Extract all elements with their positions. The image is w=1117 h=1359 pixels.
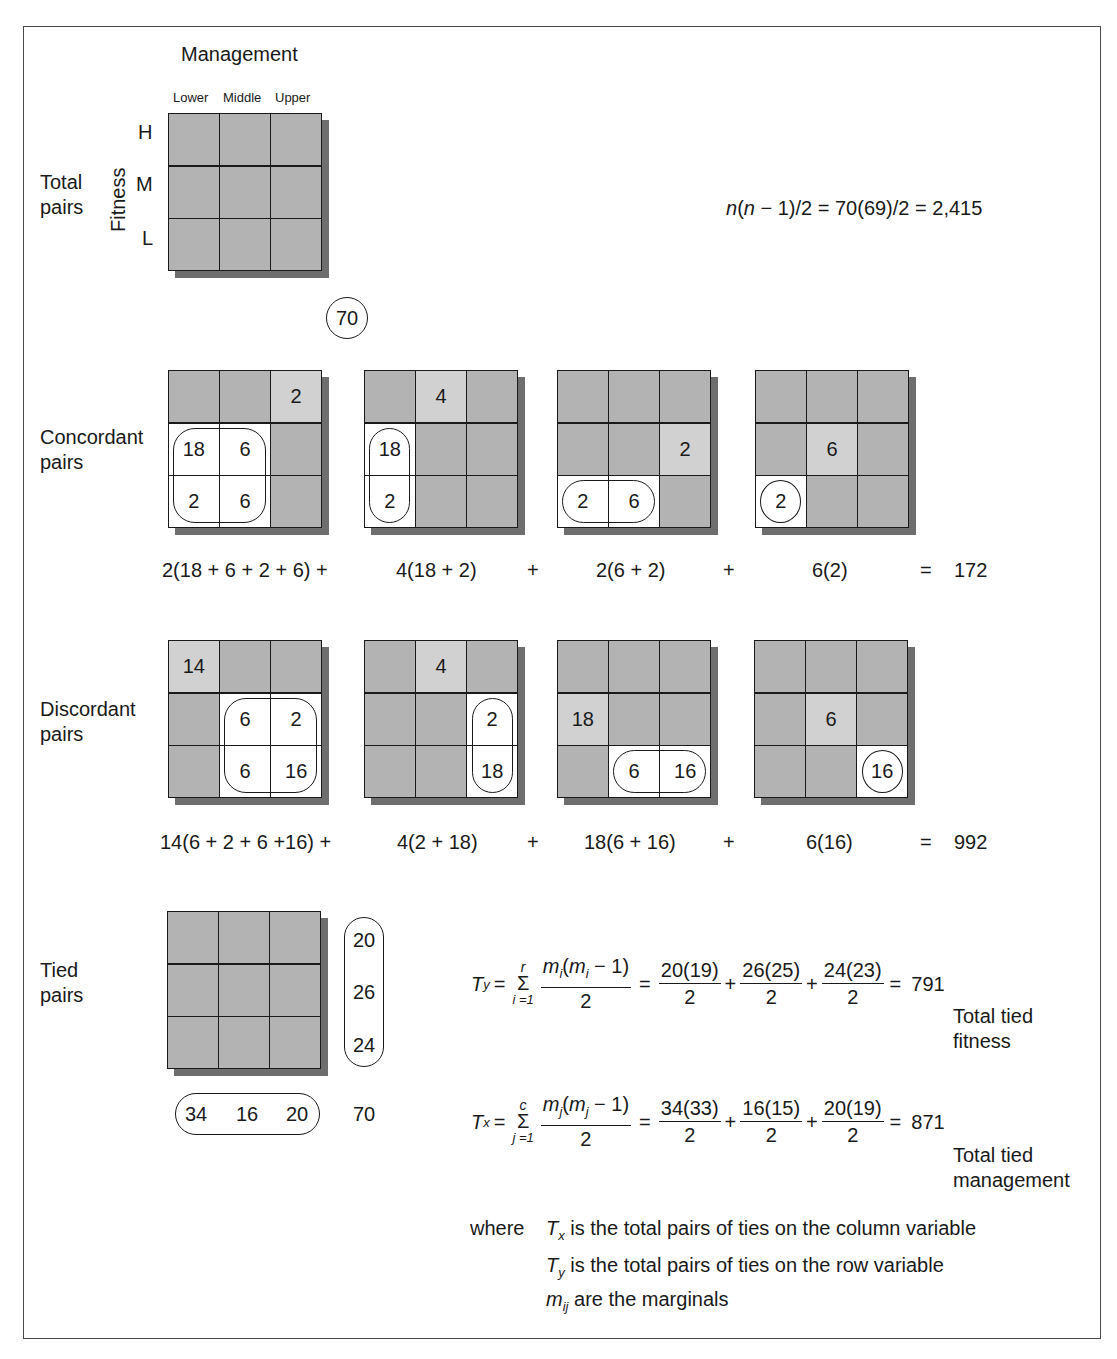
cell: [271, 167, 321, 218]
ty-fraction-1: 20(19)2: [659, 959, 721, 1009]
concordant-grid-2: 4182: [364, 370, 518, 528]
cell: [219, 1017, 269, 1068]
contingency-table: 4182: [364, 370, 518, 528]
cell: [220, 371, 270, 422]
cell: 4: [416, 641, 466, 692]
legend-where: where: [470, 1216, 524, 1240]
cell: [609, 694, 659, 745]
cell: [660, 641, 710, 692]
cell: [756, 424, 806, 475]
cell: [660, 694, 710, 745]
cell: 16: [271, 746, 321, 797]
row-marginal-3: 24: [353, 1033, 375, 1057]
cell: [806, 641, 856, 692]
contingency-table: 62: [755, 370, 909, 528]
cell: [271, 476, 321, 527]
contingency-table: [167, 911, 321, 1069]
cell: [220, 219, 270, 270]
discordant-plus-2: +: [723, 830, 735, 854]
tx-equation: Tx = cΣj =1 mj(mj − 1)2 = 34(33)2 + 16(1…: [471, 1093, 945, 1151]
cell: [558, 746, 608, 797]
cell: 6: [807, 424, 857, 475]
general-fraction: mj(mj − 1)2: [541, 1093, 631, 1151]
cell: [857, 641, 907, 692]
tied-pairs-grid: [167, 911, 321, 1069]
contingency-table: 1462616: [168, 640, 322, 798]
total-pairs-formula: n(n − 1)/2 = 70(69)/2 = 2,415: [726, 196, 982, 220]
contingency-table: 226: [557, 370, 711, 528]
concordant-term-3: 2(6 + 2): [596, 558, 665, 582]
tx-caption-1: Total tied: [953, 1143, 1033, 1167]
cell: [365, 746, 415, 797]
concordant-plus-2: +: [723, 558, 735, 582]
discordant-term-3: 18(6 + 16): [584, 830, 676, 854]
legend-line-tx: Tx is the total pairs of ties on the col…: [546, 1216, 976, 1248]
cell: [609, 641, 659, 692]
total-pairs-label-1: Total: [40, 170, 82, 194]
ty-fraction-3: 24(23)2: [822, 959, 884, 1009]
cell: 16: [857, 746, 907, 797]
cell: [609, 424, 659, 475]
ty-equation: Ty = rΣi =1 mi(mi − 1)2 = 20(19)2 + 26(2…: [471, 955, 945, 1013]
tx-fraction-2: 16(15)2: [740, 1097, 802, 1147]
cell: [807, 476, 857, 527]
cell: 6: [609, 476, 659, 527]
discordant-label-2: pairs: [40, 722, 83, 746]
ty-caption-2: fitness: [953, 1029, 1011, 1053]
cell: [416, 746, 466, 797]
cell: 6: [220, 694, 270, 745]
cell: 2: [660, 424, 710, 475]
contingency-table: 218626: [168, 370, 322, 528]
cell: 18: [558, 694, 608, 745]
cell: [168, 965, 218, 1016]
concordant-label-1: Concordant: [40, 425, 143, 449]
cell: [169, 219, 219, 270]
cell: [806, 746, 856, 797]
cell: 16: [660, 746, 710, 797]
legend-line-ty: Ty is the total pairs of ties on the row…: [546, 1253, 944, 1285]
row-level-m: M: [136, 172, 153, 196]
row-marginal-2: 26: [353, 980, 375, 1004]
cell: [467, 371, 517, 422]
cell: [467, 641, 517, 692]
tx-result: 871: [911, 1111, 944, 1134]
cell: [270, 912, 320, 963]
column-level-middle: Middle: [223, 90, 261, 106]
ty-result: 791: [911, 973, 944, 996]
contingency-table: 4218: [364, 640, 518, 798]
cell: [219, 912, 269, 963]
tx-fraction-3: 20(19)2: [822, 1097, 884, 1147]
discordant-plus-1: +: [527, 830, 539, 854]
cell: [416, 694, 466, 745]
concordant-grid-4: 62: [755, 370, 909, 528]
discordant-label-1: Discordant: [40, 697, 136, 721]
row-level-h: H: [138, 120, 152, 144]
cell: 6: [220, 746, 270, 797]
ty-subscript: y: [483, 977, 490, 992]
cell: [857, 694, 907, 745]
cell: [168, 912, 218, 963]
cell: 14: [169, 641, 219, 692]
discordant-grid-1: 1462616: [168, 640, 322, 798]
cell: 18: [467, 746, 517, 797]
cell: [270, 1017, 320, 1068]
cell: [365, 694, 415, 745]
concordant-plus-1: +: [527, 558, 539, 582]
cell: [558, 424, 608, 475]
discordant-term-4: 6(16): [806, 830, 853, 854]
cell: [271, 219, 321, 270]
concordant-label-2: pairs: [40, 450, 83, 474]
cell: [168, 1017, 218, 1068]
contingency-table: 616: [754, 640, 908, 798]
cell: 4: [416, 371, 466, 422]
cell: [220, 114, 270, 165]
n-total-circle: 70: [326, 297, 368, 339]
col-marginal-2: 16: [236, 1102, 258, 1126]
col-marginal-3: 20: [286, 1102, 308, 1126]
col-marginal-1: 34: [185, 1102, 207, 1126]
tied-label-2: pairs: [40, 983, 83, 1007]
cell: 2: [558, 476, 608, 527]
column-level-lower: Lower: [173, 90, 208, 106]
total-pairs-label-2: pairs: [40, 195, 83, 219]
cell: [416, 476, 466, 527]
